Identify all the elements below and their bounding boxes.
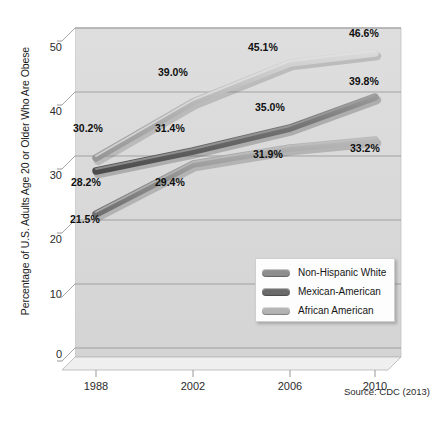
x-tick-1988: 1988 [66,380,126,392]
legend-swatch-icon-african-american [262,307,290,315]
legend-label-non-hispanic-white: Non-Hispanic White [298,267,386,278]
legend-item-african-american[interactable]: African American [262,301,394,320]
data-label-nhw-2002: 29.4% [155,176,185,188]
y-tick-marks [57,41,62,361]
plot-area [0,0,442,432]
data-label-nhw-2010: 33.2% [350,142,380,154]
data-label-nhw-2006: 31.9% [253,148,283,160]
data-label-afr-2010: 46.6% [349,27,379,39]
legend-label-african-american: African American [298,305,374,316]
data-label-afr-2002: 39.0% [158,66,188,78]
data-label-nhw-1988: 21.5% [70,213,100,225]
legend-item-non-hispanic-white[interactable]: Non-Hispanic White [262,263,394,282]
data-label-mex-2010: 39.8% [349,75,379,87]
source-note: Source: CDC (2013) [344,386,430,397]
chart-legend[interactable]: Non-Hispanic White Mexican-American Afri… [255,258,395,322]
legend-item-mexican-american[interactable]: Mexican-American [262,282,394,301]
data-label-mex-1988: 28.2% [71,176,101,188]
x-tick-2002: 2002 [163,380,223,392]
legend-swatch-icon-non-hispanic-white [262,269,290,277]
legend-swatch-icon-mexican-american [262,288,290,296]
data-label-mex-2006: 35.0% [255,101,285,113]
data-label-afr-2006: 45.1% [248,41,278,53]
obesity-trend-chart: Percentage of U.S. Adults Age 20 or Olde… [0,0,442,432]
data-label-afr-1988: 30.2% [73,122,103,134]
legend-label-mexican-american: Mexican-American [298,286,381,297]
x-tick-2006: 2006 [260,380,320,392]
data-label-mex-2002: 31.4% [155,122,185,134]
x-tick-marks [96,370,375,377]
